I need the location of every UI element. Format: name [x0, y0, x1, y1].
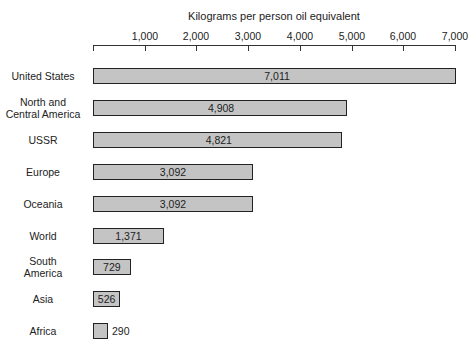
- category-label: Europe: [0, 166, 86, 178]
- x-axis-tick-label: 2,000: [183, 30, 209, 42]
- category-label: North andCentral America: [0, 96, 86, 120]
- x-axis-tick-label: 4,000: [287, 30, 313, 42]
- bar-value-label: 4,908: [208, 100, 234, 116]
- bar-value-label: 7,011: [264, 68, 290, 84]
- bar-value-label: 1,371: [115, 228, 141, 244]
- x-axis-tick: [300, 45, 301, 51]
- chart-title: Kilograms per person oil equivalent: [93, 10, 455, 22]
- bar-value-label: 4,821: [206, 132, 232, 148]
- x-axis-tick: [196, 45, 197, 51]
- x-axis-tick-label: 5,000: [339, 30, 365, 42]
- bar-value-label: 526: [98, 291, 116, 307]
- x-axis-tick-label: 7,000: [442, 30, 468, 42]
- x-axis-tick: [145, 45, 146, 51]
- x-axis-tick: [93, 45, 94, 51]
- x-axis-tick-label: 1,000: [132, 30, 158, 42]
- category-label: SouthAmerica: [0, 255, 86, 279]
- bar-value-label: 3,092: [160, 196, 186, 212]
- x-axis-tick: [455, 45, 456, 51]
- category-label: World: [0, 230, 86, 242]
- category-label: Africa: [0, 325, 86, 337]
- category-label: USSR: [0, 134, 86, 146]
- x-axis-tick: [352, 45, 353, 51]
- x-axis-tick: [403, 45, 404, 51]
- bar: [93, 323, 108, 339]
- x-axis-tick-label: 3,000: [235, 30, 261, 42]
- category-label: Asia: [0, 293, 86, 305]
- category-label: United States: [0, 70, 86, 82]
- x-axis-tick-label: 6,000: [390, 30, 416, 42]
- x-axis-tick: [248, 45, 249, 51]
- category-label: Oceania: [0, 198, 86, 210]
- x-axis-line: [93, 45, 455, 46]
- bar-value-label: 290: [112, 323, 130, 339]
- bar-value-label: 729: [103, 259, 121, 275]
- bar-value-label: 3,092: [160, 164, 186, 180]
